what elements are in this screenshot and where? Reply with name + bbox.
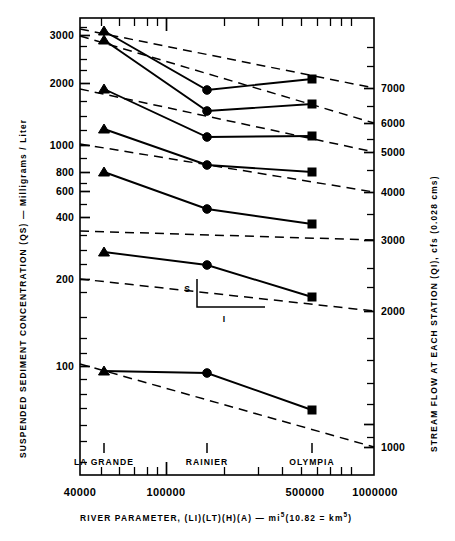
bottom-axis-title-mid: (10.82 = km [285, 513, 343, 523]
left-axis-tick-labels: 3000 2000 1000 800 600 400 200 100 [50, 29, 74, 372]
left-tick-label: 600 [56, 185, 74, 197]
station-label-olympia: OLYMPIA [289, 457, 334, 467]
square-marker [308, 75, 316, 83]
right-tick-label: 1000 [381, 441, 405, 453]
right-tick-label: 7000 [381, 82, 405, 94]
series-line-5 [104, 172, 312, 224]
triangle-marker [99, 84, 110, 93]
left-tick-label: 100 [56, 360, 74, 372]
bottom-axis-title-main: RIVER PARAMETER, (LI)(LT)(H)(A) — mi [80, 513, 281, 523]
series-line-2 [104, 40, 312, 111]
x-tick-label: 40000 [64, 486, 97, 498]
dash-series-6 [80, 279, 374, 311]
markers-la-grande [99, 26, 110, 375]
svg-text:RIVER PARAMETER, (LI)(LT)(H)(: RIVER PARAMETER, (LI)(LT)(H)(A) — mi5(10… [80, 511, 352, 523]
chart-figure: 3000 2000 1000 800 600 400 200 100 7000 [0, 0, 455, 541]
markers-olympia [308, 75, 316, 414]
circle-marker [203, 205, 212, 214]
x-tick-label: 500000 [285, 486, 324, 498]
circle-marker [203, 133, 212, 142]
left-axis-title: SUSPENDED SEDIMENT CONCENTRATION (QS) — … [18, 119, 28, 458]
right-axis-title: STREAM FLOW AT EACH STATION (QI), cfs (0… [429, 175, 439, 452]
right-tick-label: 3000 [381, 234, 405, 246]
station-label-la-grande: LA GRANDE [74, 457, 134, 467]
plot-frame [80, 18, 374, 475]
dash-series-7 [80, 364, 374, 447]
x-tick-label: 1000000 [352, 486, 398, 498]
circle-marker [203, 107, 212, 116]
top-axis-ticks [102, 18, 352, 31]
left-tick-label: 400 [56, 211, 74, 223]
circle-marker [203, 86, 212, 95]
left-tick-label: 2000 [50, 77, 74, 89]
x-tick-label: 100000 [146, 486, 185, 498]
square-marker [308, 168, 316, 176]
right-tick-label: 6000 [381, 117, 405, 129]
square-marker [308, 293, 316, 301]
right-axis-tick-labels: 7000 6000 5000 4000 3000 2000 1000 [381, 82, 405, 453]
square-marker [308, 132, 316, 140]
right-tick-label: 4000 [381, 186, 405, 198]
series-line-6 [104, 252, 312, 297]
left-axis-ticks [80, 28, 90, 463]
circle-marker [203, 369, 212, 378]
station-label-rainier: RAINIER [186, 457, 228, 467]
right-axis-ticks [364, 48, 374, 448]
square-marker [308, 220, 316, 228]
square-marker [308, 100, 316, 108]
slope-run-label: I [223, 314, 225, 324]
chart-canvas: 3000 2000 1000 800 600 400 200 100 7000 [0, 0, 455, 541]
triangle-marker [99, 35, 110, 44]
bottom-axis-title: RIVER PARAMETER, (LI)(LT)(H)(A) — mi5(10… [80, 511, 352, 523]
triangle-marker [99, 124, 110, 133]
slope-rise-label: S [184, 284, 190, 294]
bottom-axis-title-end: ) [348, 513, 352, 523]
left-tick-label: 800 [56, 166, 74, 178]
slope-annotation: S I [184, 279, 265, 324]
right-tick-label: 2000 [381, 305, 405, 317]
dashed-streamflow-lines [80, 29, 374, 447]
station-markers: LA GRANDE RAINIER OLYMPIA [74, 443, 335, 467]
square-marker [308, 406, 316, 414]
triangle-marker [99, 247, 110, 256]
triangle-marker [99, 26, 110, 35]
dash-series-4 [80, 144, 374, 192]
dash-series-5 [80, 231, 374, 240]
left-tick-label: 1000 [50, 139, 74, 151]
left-tick-label: 3000 [50, 29, 74, 41]
left-tick-label: 200 [56, 273, 74, 285]
right-tick-label: 5000 [381, 146, 405, 158]
triangle-marker [99, 167, 110, 176]
circle-marker [203, 261, 212, 270]
circle-marker [203, 161, 212, 170]
bottom-axis-tick-labels: 40000 100000 500000 1000000 [64, 486, 398, 498]
markers-rainier [203, 86, 212, 378]
